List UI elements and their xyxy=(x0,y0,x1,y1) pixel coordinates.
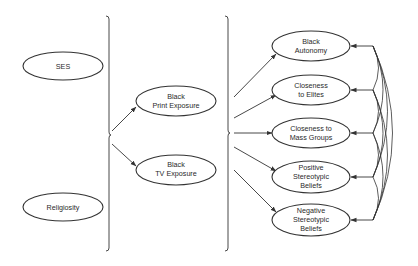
node-tv-line2: TV Exposure xyxy=(155,169,197,178)
node-print-line1: Black xyxy=(167,92,185,101)
node-ses: SES xyxy=(23,52,103,80)
node-print-exposure: Black Print Exposure xyxy=(136,86,216,116)
node-mass-line1: Closeness to xyxy=(290,124,332,133)
arrow-to-autonomy xyxy=(234,54,276,97)
node-negative-line2: Stereotypic xyxy=(293,215,329,224)
node-mass-line2: Mass Groups xyxy=(290,133,333,142)
node-tv-line1: Black xyxy=(167,160,185,169)
node-positive-line2: Stereotypic xyxy=(293,172,329,181)
node-autonomy-line1: Black xyxy=(302,37,320,46)
correlation-arcs xyxy=(373,46,393,220)
path-diagram: SES Religiosity Black Print Exposure Bla… xyxy=(0,0,418,266)
node-black-autonomy: Black Autonomy xyxy=(272,31,350,61)
node-closeness-mass: Closeness to Mass Groups xyxy=(272,118,350,148)
node-religiosity-label: Religiosity xyxy=(47,203,80,212)
mediator-brace xyxy=(225,16,230,251)
node-tv-exposure: Black TV Exposure xyxy=(136,155,216,185)
node-negative-line3: Beliefs xyxy=(300,224,322,233)
arrow-to-tv xyxy=(112,144,136,166)
node-positive-stereotypic: Positive Stereotypic Beliefs xyxy=(272,161,350,193)
node-ses-label: SES xyxy=(56,62,71,71)
node-religiosity: Religiosity xyxy=(23,193,103,221)
exogenous-brace xyxy=(106,16,111,251)
node-closeness-elites: Closeness to Elites xyxy=(272,75,350,105)
node-autonomy-line2: Autonomy xyxy=(295,46,328,55)
arrow-to-positive xyxy=(234,147,276,171)
arrow-to-negative xyxy=(234,170,276,212)
node-positive-line1: Positive xyxy=(298,163,323,172)
node-positive-line3: Beliefs xyxy=(300,181,322,190)
arrow-to-print xyxy=(112,107,136,131)
node-print-line2: Print Exposure xyxy=(152,101,199,110)
correlation-arrow-stubs xyxy=(351,46,373,220)
node-elites-line2: to Elites xyxy=(298,90,324,99)
arrow-to-elites xyxy=(234,95,276,118)
node-negative-line1: Negative xyxy=(297,206,325,215)
node-negative-stereotypic: Negative Stereotypic Beliefs xyxy=(272,204,350,236)
node-elites-line1: Closeness xyxy=(294,81,328,90)
